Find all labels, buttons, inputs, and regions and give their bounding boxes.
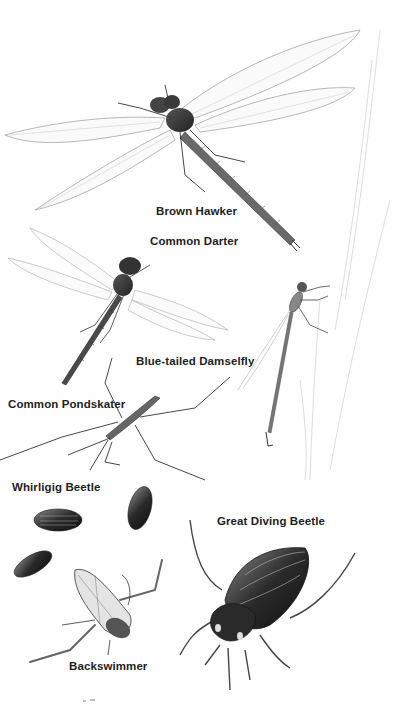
label-common-darter: Common Darter bbox=[150, 235, 238, 247]
common-pondskater-illustration bbox=[0, 358, 230, 480]
label-great-diving-beetle: Great Diving Beetle bbox=[217, 515, 325, 527]
whirligig-beetle-illustrations bbox=[10, 484, 156, 582]
stray-marks bbox=[83, 700, 95, 701]
great-diving-beetle-illustration bbox=[180, 520, 355, 690]
label-backswimmer: Backswimmer bbox=[69, 660, 147, 672]
label-blue-tailed-damselfly: Blue-tailed Damselfly bbox=[136, 355, 254, 367]
label-brown-hawker: Brown Hawker bbox=[156, 205, 237, 217]
insect-plate: Brown Hawker Common Darter Blue-tailed D… bbox=[0, 0, 396, 716]
brown-hawker-illustration bbox=[5, 30, 360, 251]
label-whirligig-beetle: Whirligig Beetle bbox=[12, 481, 101, 493]
label-common-pondskater: Common Pondskater bbox=[8, 398, 125, 410]
backswimmer-illustration bbox=[30, 560, 162, 662]
